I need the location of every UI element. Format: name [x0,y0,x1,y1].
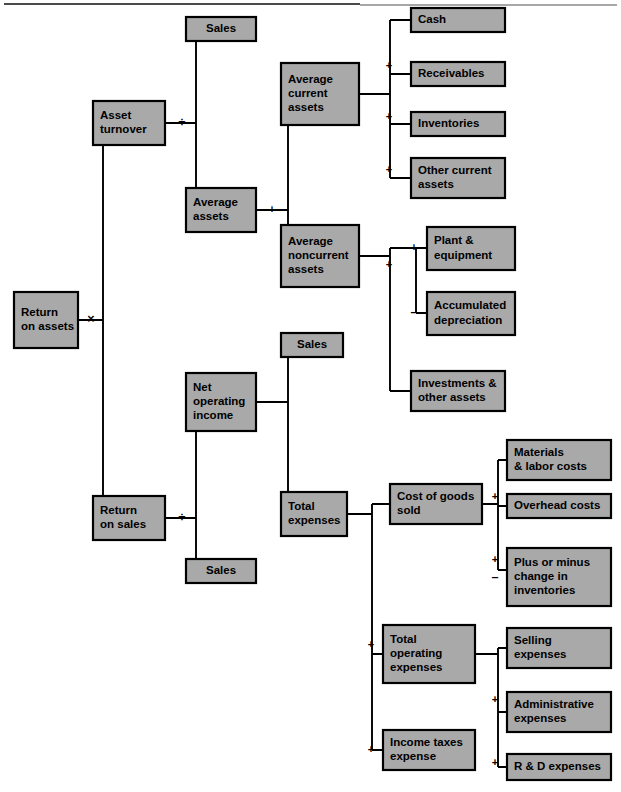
op-plus-total-oper-exp: + [368,638,374,650]
node-label-administrative-expenses: Administrative [514,698,594,710]
node-label-plant-equipment: equipment [434,249,492,261]
node-r-and-d-expenses[interactable]: R & D expenses [507,754,611,780]
node-label-administrative-expenses: expenses [514,712,566,724]
node-label-average-noncurrent-assets: assets [288,263,324,275]
op-plus-change-inv: + [492,553,498,565]
op-plus-income-taxes: + [368,743,374,755]
node-label-average-assets: Average [193,196,238,208]
node-label-cash: Cash [418,13,446,25]
node-income-taxes-expense[interactable]: Income taxesexpense [383,730,475,770]
conn-total-oper-exp [475,648,507,767]
node-label-return-on-assets: on assets [21,320,74,332]
node-plus-or-minus-change[interactable]: Plus or minuschange ininventories [507,548,611,606]
node-label-average-noncurrent-assets: noncurrent [288,249,349,261]
node-administrative-expenses[interactable]: Administrativeexpenses [507,692,611,732]
op-plus-plant: + [411,241,417,253]
node-label-total-operating-expenses: expenses [390,661,442,673]
node-total-operating-expenses[interactable]: Totaloperatingexpenses [383,625,475,683]
node-cash[interactable]: Cash [411,8,505,32]
node-label-plus-or-minus-change: inventories [514,584,575,596]
op-plus-admin-exp: + [492,693,498,705]
node-average-current-assets[interactable]: Averagecurrentassets [281,63,359,125]
node-label-r-and-d-expenses: R & D expenses [514,760,601,772]
op-minus-accum-depr: – [411,305,418,319]
node-label-accumulated-depreciation: depreciation [434,314,502,326]
op-plus-rnd-exp: + [492,756,498,768]
conn-avg-current [359,20,411,178]
node-label-net-operating-income: income [193,409,233,421]
node-label-income-taxes-expense: expense [390,750,436,762]
node-label-other-current-assets: Other current [418,164,492,176]
node-label-inventories: Inventories [418,117,479,129]
node-label-return-on-sales: Return [100,504,137,516]
op-plus-investments: + [386,258,392,270]
op-plus-recv-inv: + [386,110,392,122]
op-plus-overhead: + [492,490,498,502]
node-label-investments-other-assets: other assets [418,391,486,403]
op-divide-asset-turn: ÷ [179,115,186,129]
op-plus-inv-other: + [386,163,392,175]
node-label-plus-or-minus-change: change in [514,570,568,582]
node-label-materials-labor-costs: Materials [514,446,564,458]
node-label-accumulated-depreciation: Accumulated [434,299,506,311]
node-label-return-on-assets: Return [21,306,58,318]
node-label-average-current-assets: assets [288,101,324,113]
node-label-asset-turnover: turnover [100,123,147,135]
diagram-page: Returnon assetsAssetturnoverReturnon sal… [0,0,621,792]
node-sales-top[interactable]: Sales [186,17,256,41]
node-materials-labor-costs[interactable]: Materials& labor costs [507,440,611,480]
node-label-income-taxes-expense: Income taxes [390,736,463,748]
node-receivables[interactable]: Receivables [411,62,505,86]
node-selling-expenses[interactable]: Sellingexpenses [507,628,611,668]
node-net-operating-income[interactable]: Netoperatingincome [186,373,256,431]
node-label-average-noncurrent-assets: Average [288,235,333,247]
node-investments-other-assets[interactable]: Investments &other assets [411,371,505,411]
node-label-total-expenses: expenses [288,514,340,526]
node-sales-bottom[interactable]: Sales [186,559,256,583]
node-asset-turnover[interactable]: Assetturnover [93,101,165,145]
node-overhead-costs[interactable]: Overhead costs [507,494,611,518]
node-label-receivables: Receivables [418,67,485,79]
node-return-on-assets[interactable]: Returnon assets [14,292,78,348]
node-label-sales-top: Sales [206,22,236,34]
op-divide-ros: ÷ [179,510,186,524]
node-label-cost-of-goods-sold: Cost of goods [397,490,474,502]
node-label-net-operating-income: Net [193,381,212,393]
node-label-sales-bottom: Sales [206,564,236,576]
node-label-net-operating-income: operating [193,395,245,407]
node-return-on-sales[interactable]: Returnon sales [93,496,165,540]
node-label-other-current-assets: assets [418,178,454,190]
node-label-asset-turnover: Asset [100,109,131,121]
op-plus-cash-recv: + [386,59,392,71]
top-rule-group [4,4,617,5]
node-total-expenses[interactable]: Totalexpenses [281,492,347,536]
node-label-average-current-assets: current [288,87,328,99]
node-label-return-on-sales: on sales [100,518,146,530]
node-label-overhead-costs: Overhead costs [514,499,600,511]
node-average-assets[interactable]: Averageassets [186,188,256,232]
node-label-total-operating-expenses: operating [390,647,442,659]
node-accumulated-depreciation[interactable]: Accumulateddepreciation [427,292,515,335]
op-minus-change-inv: – [492,570,499,584]
node-label-average-assets: assets [193,210,229,222]
node-plant-equipment[interactable]: Plant &equipment [427,227,515,270]
node-label-average-current-assets: Average [288,73,333,85]
node-label-plus-or-minus-change: Plus or minus [514,556,590,568]
node-label-selling-expenses: expenses [514,648,566,660]
return-on-assets-tree-diagram: Returnon assetsAssetturnoverReturnon sal… [0,0,621,792]
node-label-investments-other-assets: Investments & [418,377,497,389]
op-multiply-roa: × [87,312,94,326]
op-plus-avg-assets: + [269,203,275,215]
node-average-noncurrent-assets[interactable]: Averagenoncurrentassets [281,225,359,287]
node-label-selling-expenses: Selling [514,634,552,646]
node-label-total-operating-expenses: Total [390,633,417,645]
node-cost-of-goods-sold[interactable]: Cost of goodssold [390,484,482,524]
node-label-plant-equipment: Plant & [434,234,474,246]
node-sales-mid[interactable]: Sales [281,333,343,357]
op-minus-noi: – [269,394,276,408]
node-other-current-assets[interactable]: Other currentassets [411,158,505,198]
node-label-materials-labor-costs: & labor costs [514,460,587,472]
conn-noi [256,345,288,514]
node-inventories[interactable]: Inventories [411,112,505,136]
node-label-cost-of-goods-sold: sold [397,504,421,516]
